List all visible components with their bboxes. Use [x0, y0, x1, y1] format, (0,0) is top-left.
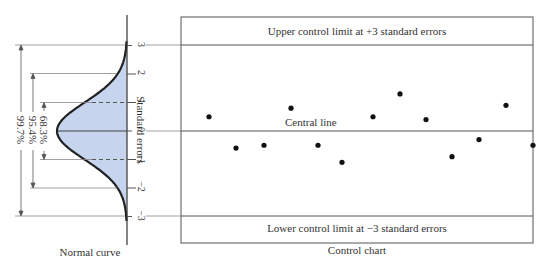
tick-label: −3 — [136, 208, 147, 222]
normal-curve-caption: Normal curve — [40, 246, 140, 258]
data-point — [261, 143, 266, 148]
band-label-68-3: 68.3% — [38, 110, 50, 150]
data-point — [503, 103, 508, 108]
figure: 3210−1−2−3 Standard errors 99.7% 95.4% 6… — [0, 0, 549, 270]
control-chart-caption: Control chart — [181, 244, 533, 256]
data-point — [476, 137, 481, 142]
sample-points — [206, 91, 535, 165]
data-point — [370, 114, 375, 119]
axis-label-standard-errors: Standard errors — [135, 95, 147, 165]
tick-label: 2 — [136, 66, 147, 80]
data-point — [397, 91, 402, 96]
data-point — [233, 146, 238, 151]
data-point — [449, 154, 454, 159]
data-point — [339, 160, 344, 165]
tick-label: 3 — [136, 37, 147, 51]
control-chart-frame — [181, 17, 533, 243]
lcl-label: Lower control limit at −3 standard error… — [181, 222, 533, 234]
data-point — [288, 106, 293, 111]
ucl-label: Upper control limit at +3 standard error… — [181, 25, 533, 37]
tick-label: −2 — [136, 180, 147, 194]
data-point — [423, 117, 428, 122]
data-point — [206, 114, 211, 119]
central-line-label: Central line — [285, 116, 337, 128]
band-label-99-7: 99.7% — [15, 110, 27, 150]
data-point — [315, 143, 320, 148]
data-point — [530, 143, 535, 148]
